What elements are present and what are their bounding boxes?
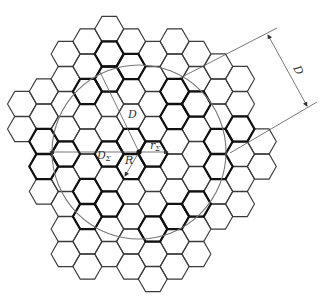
hex-cell (247, 154, 276, 179)
hexagonal-grid-diagram: D D DΣ R rΣ (0, 0, 325, 298)
hex-cell (73, 104, 102, 129)
hex-cell (8, 91, 37, 116)
hex-cell (29, 179, 58, 204)
hex-cell (160, 29, 189, 54)
hex-cell (160, 254, 189, 279)
hex-cell (138, 241, 167, 266)
hex-cell (51, 41, 80, 66)
label-d-sigma: DΣ (96, 149, 111, 163)
hex-cell (73, 254, 102, 279)
hex-cell (95, 16, 124, 41)
hex-cell-bold (204, 129, 233, 154)
hex-cell (182, 41, 211, 66)
hex-cell-bold (51, 141, 80, 166)
cluster-outline-hexes (29, 41, 254, 241)
hex-cell (29, 104, 58, 129)
dimension-extension-line-upper (180, 28, 277, 78)
hex-cell (138, 266, 167, 291)
hex-cell (117, 254, 146, 279)
hex-cell-bold (73, 79, 102, 104)
label-d-inner: D (127, 108, 137, 121)
hex-cell-bold (204, 154, 233, 179)
hex-cell (226, 66, 255, 91)
hex-cell (204, 54, 233, 79)
hex-cell (226, 91, 255, 116)
hex-cell (182, 241, 211, 266)
hex-cell (226, 191, 255, 216)
hex-cell (51, 241, 80, 266)
hex-cell (95, 241, 124, 266)
hex-cell (29, 79, 58, 104)
center-point-dot (136, 149, 141, 154)
hex-cell-bold (160, 104, 189, 129)
label-d-dimension: D (290, 62, 306, 77)
label-r: R (124, 154, 133, 167)
hex-cell-bold (73, 179, 102, 204)
hex-cell (73, 229, 102, 254)
